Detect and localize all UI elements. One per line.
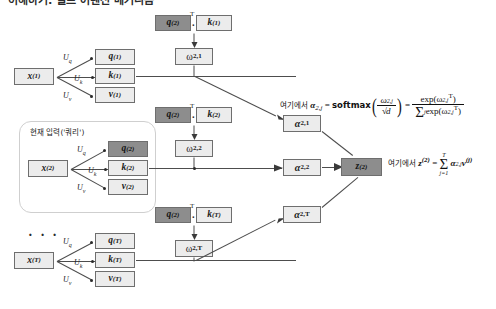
label-xT-uq: Uq <box>63 237 72 248</box>
dot-2-k: k(2) <box>196 107 232 123</box>
edge-alpha1-z <box>322 131 353 156</box>
formula-z-v-sup: (j) <box>466 156 473 164</box>
input-xT: x(T) <box>14 252 54 269</box>
edge-xT-qT-head <box>90 241 93 244</box>
formula-alpha-paren-close: ) <box>397 96 402 116</box>
figure-title-cropped: 이해하기: 셀프 어텐션 메커니즘 <box>0 0 496 8</box>
formula-z-summation: T Σ j=1 <box>440 152 449 176</box>
formula-alpha-paren-open: ( <box>372 96 377 116</box>
edge-alphaT-z <box>322 177 359 208</box>
qkv-k1: k(1) <box>95 68 135 84</box>
edge-xT-vT-head <box>90 279 93 282</box>
formula-alpha: 여기에서 α2,j = softmax(ω2,j√d) = exp(ω2,jT)… <box>280 93 464 118</box>
dot-1-k: k(1) <box>196 15 232 31</box>
input-x1: x(1) <box>14 68 54 85</box>
label-xT-uk: Uk <box>74 258 82 269</box>
diagram-canvas: 이해하기: 셀프 어텐션 메커니즘 x(1) Uq Uk Uv q(1) k(1… <box>0 0 496 309</box>
dot-2-dot: · <box>192 112 195 123</box>
dot-2-transpose: T <box>190 102 194 110</box>
omega-2-1: ω2,1 <box>175 48 213 65</box>
bus2-junction <box>193 167 196 170</box>
qkv-k2: k(2) <box>108 160 148 176</box>
formula-z: 여기에서 z(2) = T Σ j=1 α2,jv(j) <box>388 152 472 176</box>
figure-title-text: 이해하기: 셀프 어텐션 메커니즘 <box>8 0 154 7</box>
label-x2-uv: Uv <box>77 183 85 194</box>
arrowhead-dot2-omega2 <box>191 133 199 140</box>
arrowhead-dotT-omegaT <box>191 233 199 240</box>
alpha-2-2: α2,2 <box>283 159 321 176</box>
edge-xT-kT-head <box>91 260 94 263</box>
input-x2: x(2) <box>28 160 68 177</box>
arrowhead-alpha2 <box>274 164 283 172</box>
formula-alpha-eq: = <box>325 100 330 110</box>
edge-k1-to-bus <box>136 76 296 77</box>
formula-z-prefix: 여기에서 <box>388 159 416 168</box>
edge-x2-v2-head <box>103 187 106 190</box>
arrowhead-dot1-omega1 <box>191 41 199 48</box>
current-input-highlight-label: 현재 입력('쿼리') <box>30 126 84 137</box>
edge-kT-to-bus <box>136 260 296 261</box>
label-x1-uk: Uk <box>74 74 82 85</box>
dot-T-k: k(T) <box>196 207 232 223</box>
edge-x1-k1-head <box>91 76 94 79</box>
qkv-v2: v(2) <box>108 179 148 195</box>
formula-alpha-eq2: = <box>405 100 410 110</box>
dot-1-q: q(2) <box>155 15 191 31</box>
edge-x1-q1-head <box>90 57 93 60</box>
formula-alpha-lhs-sub: 2,j <box>315 104 322 112</box>
label-x1-uv: Uv <box>63 91 71 102</box>
inputs-ellipsis: · · · <box>28 228 59 244</box>
qkv-qT: q(T) <box>95 233 135 249</box>
label-x2-uq: Uq <box>77 145 86 156</box>
formula-alpha-prefix: 여기에서 <box>280 101 308 110</box>
edge-x1-v1-head <box>90 95 93 98</box>
edge-k2-to-bus <box>149 168 282 169</box>
label-x1-uq: Uq <box>63 53 72 64</box>
qkv-kT: k(T) <box>95 252 135 268</box>
edge-x2-q2-head <box>103 149 106 152</box>
qkv-q1: q(1) <box>95 49 135 65</box>
omega-2-2: ω2,2 <box>175 140 213 157</box>
dot-T-transpose: T <box>190 202 194 210</box>
formula-z-eq: = <box>432 158 437 168</box>
dot-1-transpose: T <box>190 10 194 18</box>
formula-alpha-rhs-fraction: exp(ω2,jT) Σjexp(ω2,jT) <box>412 93 464 118</box>
dot-1-dot: · <box>192 20 195 31</box>
output-z2: z(2) <box>341 158 382 176</box>
formula-z-lhs-sup: (2) <box>422 156 430 164</box>
dot-T-dot: · <box>192 212 195 223</box>
stem-omegaT <box>194 258 195 262</box>
qkv-q2: q(2) <box>108 141 148 157</box>
alpha-2-T: α2,T <box>283 206 321 223</box>
dot-2-q: q(2) <box>155 107 191 123</box>
label-x2-uk: Uk <box>88 166 96 177</box>
formula-alpha-fraction: ω2,j√d <box>377 95 396 116</box>
input-x1-sup: (1) <box>32 73 40 80</box>
dot-T-q: q(2) <box>155 207 191 223</box>
qkv-v1: v(1) <box>95 87 135 103</box>
qkv-vT: v(T) <box>95 271 135 287</box>
formula-alpha-func: softmax <box>332 100 371 110</box>
label-xT-uv: Uv <box>63 275 71 286</box>
edge-x2-k2-head <box>104 168 107 171</box>
